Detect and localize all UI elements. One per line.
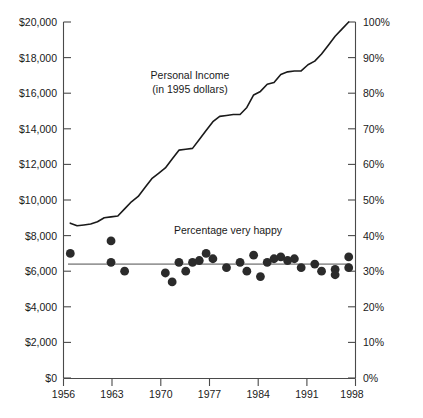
chart-container: $20,000 $18,000 $16,000 $14,000 $12,000 … — [0, 0, 423, 418]
right-tick-label-100: 100% — [363, 16, 390, 28]
left-tick-label-8000: $8,000 — [25, 230, 57, 242]
happiness-data-point — [107, 237, 116, 246]
left-tick-label-10000: $10,000 — [19, 194, 57, 206]
right-tick-label-80: 80% — [363, 87, 384, 99]
right-tick-label-20: 20% — [363, 301, 384, 313]
left-tick-label-14000: $14,000 — [19, 123, 57, 135]
income-annotation-line1: Personal Income — [151, 69, 230, 81]
happiness-data-point — [344, 253, 353, 262]
happiness-data-point — [297, 263, 306, 272]
x-tick-label-1963: 1963 — [100, 388, 124, 400]
x-tick-label-1956: 1956 — [52, 388, 76, 400]
happiness-data-point — [181, 267, 190, 276]
happiness-scatter-group — [66, 237, 353, 287]
left-tick-label-20000: $20,000 — [19, 16, 57, 28]
happiness-data-point — [331, 270, 340, 279]
happiness-data-point — [222, 263, 231, 272]
happiness-data-point — [195, 256, 204, 265]
right-tick-label-0: 0% — [363, 372, 378, 384]
left-tick-label-2000: $2,000 — [25, 336, 57, 348]
happiness-data-point — [236, 258, 245, 267]
happiness-data-point — [107, 258, 116, 267]
happiness-data-point — [310, 260, 319, 269]
happiness-data-point — [256, 272, 265, 281]
right-tick-label-40: 40% — [363, 230, 384, 242]
right-tick-label-50: 50% — [363, 194, 384, 206]
personal-income-line — [70, 22, 348, 226]
right-tick-label-90: 90% — [363, 52, 384, 64]
happiness-data-point — [120, 267, 129, 276]
income-annotation-line2: (in 1995 dollars) — [152, 83, 227, 95]
left-tick-label-0: $0 — [45, 372, 57, 384]
left-axis — [64, 22, 72, 378]
happiness-data-point — [290, 254, 299, 263]
happiness-data-point — [175, 258, 184, 267]
happiness-data-point — [344, 263, 353, 272]
happiness-annotation-line1: Percentage very happy — [174, 224, 283, 236]
bottom-axis — [64, 379, 356, 387]
x-tick-label-1998: 1998 — [340, 388, 364, 400]
happiness-data-point — [249, 251, 258, 260]
left-tick-label-16000: $16,000 — [19, 87, 57, 99]
happiness-data-point — [242, 267, 251, 276]
chart-canvas: $20,000 $18,000 $16,000 $14,000 $12,000 … — [0, 0, 423, 418]
happiness-data-point — [161, 269, 170, 278]
x-tick-label-1991: 1991 — [295, 388, 319, 400]
left-tick-label-12000: $12,000 — [19, 158, 57, 170]
x-tick-label-1977: 1977 — [198, 388, 222, 400]
happiness-data-point — [209, 254, 218, 263]
happiness-data-point — [66, 249, 75, 258]
left-tick-label-18000: $18,000 — [19, 52, 57, 64]
right-tick-label-60: 60% — [363, 158, 384, 170]
x-tick-label-1984: 1984 — [247, 388, 271, 400]
left-tick-label-4000: $4,000 — [25, 301, 57, 313]
left-tick-label-6000: $6,000 — [25, 265, 57, 277]
right-tick-label-10: 10% — [363, 336, 384, 348]
right-tick-label-70: 70% — [363, 123, 384, 135]
right-axis — [348, 22, 356, 378]
happiness-data-point — [317, 267, 326, 276]
right-tick-label-30: 30% — [363, 265, 384, 277]
x-tick-label-1970: 1970 — [149, 388, 173, 400]
happiness-data-point — [168, 277, 177, 286]
